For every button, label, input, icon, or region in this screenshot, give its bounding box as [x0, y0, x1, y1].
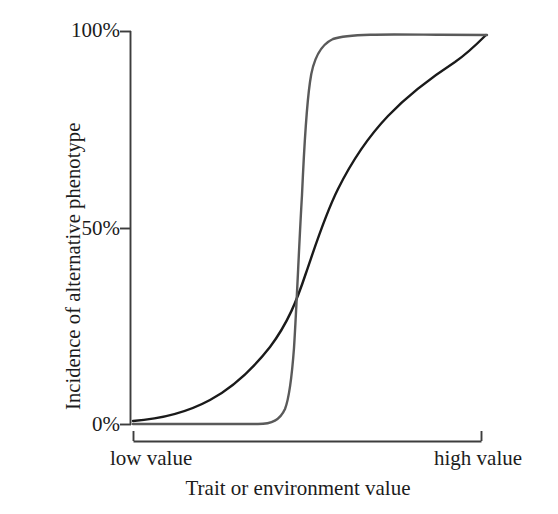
curve-steep-threshold — [133, 34, 487, 424]
x-axis-title: Trait or environment value — [0, 477, 558, 500]
x-axis-label-low-value: low value — [110, 448, 192, 469]
figure-canvas: 100% 50% 0% Incidence of alternative phe… — [0, 0, 558, 514]
x-axis — [134, 431, 482, 442]
y-axis-title: Incidence of alternative phenotype — [58, 30, 88, 410]
y-axis — [120, 31, 131, 425]
y-tick-label-0: 0% — [92, 414, 120, 435]
x-axis-label-high-value: high value — [434, 448, 522, 469]
